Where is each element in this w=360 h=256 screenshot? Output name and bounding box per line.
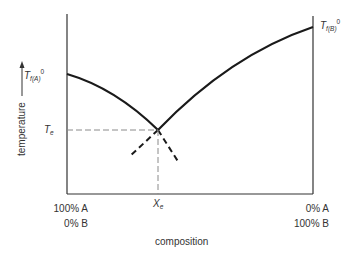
right-comp-line2: 100% B xyxy=(289,218,329,229)
eutectic-comp-main: X xyxy=(153,198,160,209)
left-melt-sub: f(A) xyxy=(30,75,40,82)
right-melt-sup: 0 xyxy=(337,18,341,25)
right-melting-point-label: Tf(B)0 xyxy=(320,18,340,32)
eutectic-comp-sub: e xyxy=(160,203,164,210)
right-comp-line1: 0% A xyxy=(289,203,329,214)
extension-curve-b xyxy=(129,130,158,157)
liquidus-curve-b xyxy=(158,27,313,130)
left-melt-sup: 0 xyxy=(41,68,45,75)
left-melting-point-label: Tf(A)0 xyxy=(24,68,44,82)
eutectic-temp-label: Te xyxy=(44,124,54,136)
liquidus-curve-a xyxy=(67,74,158,130)
y-axis-label: temperature xyxy=(16,102,27,156)
right-melt-sub: f(B) xyxy=(326,25,336,32)
arrow-head-icon xyxy=(20,61,25,68)
eutectic-comp-label: Xe xyxy=(153,198,163,210)
extension-curve-a xyxy=(158,130,179,163)
eutectic-temp-sub: e xyxy=(50,129,54,136)
left-comp-line1: 100% A xyxy=(48,203,88,214)
x-axis-label: composition xyxy=(155,236,208,247)
left-comp-line2: 0% B xyxy=(48,218,88,229)
